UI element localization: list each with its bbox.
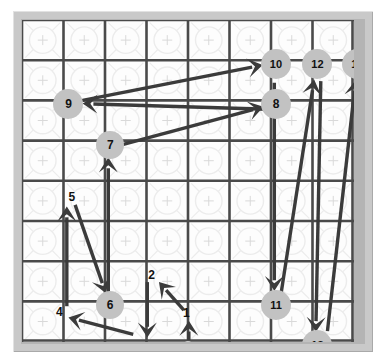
node-label-5[interactable]: 5 [63, 191, 81, 203]
arrow-6-to-7 [99, 157, 118, 294]
node-label: 10 [270, 58, 282, 70]
node-label: 12 [311, 58, 323, 70]
node-circle-6[interactable]: 6 [96, 291, 124, 319]
node-label: 7 [107, 138, 114, 152]
arrow-1-to-2 [159, 282, 184, 310]
arrow-start-to-1 [179, 321, 198, 340]
arrow-8-to-9 [83, 95, 268, 114]
node-label: 2 [148, 268, 155, 282]
node-circle-11[interactable]: 11 [261, 290, 291, 320]
node-label: 14 [351, 58, 354, 70]
node-label: 6 [107, 298, 114, 312]
arrow-9-to-10 [83, 59, 263, 101]
node-label: 1 [183, 306, 190, 320]
node-label-1[interactable]: 1 [177, 307, 195, 319]
start-dot [183, 341, 193, 342]
diagram-canvas: 1234567891011121314 [0, 0, 386, 363]
node-label: 8 [273, 97, 280, 111]
node-label: 13 [311, 339, 323, 342]
node-label-4[interactable]: 4 [50, 306, 68, 318]
arrow-13-to-14 [327, 80, 354, 331]
node-circle-10[interactable]: 10 [261, 49, 291, 79]
node-label-2[interactable]: 2 [142, 269, 160, 281]
grid-board[interactable]: 1234567891011121314 [22, 20, 354, 342]
node-label: 11 [270, 299, 282, 311]
arrow-2-to-3 [138, 282, 157, 337]
arrow-5-to-6 [75, 205, 110, 293]
node-label: 5 [68, 190, 75, 204]
node-label: 4 [56, 305, 63, 319]
node-label: 9 [65, 97, 72, 111]
arrow-4-to-5 [57, 207, 76, 307]
